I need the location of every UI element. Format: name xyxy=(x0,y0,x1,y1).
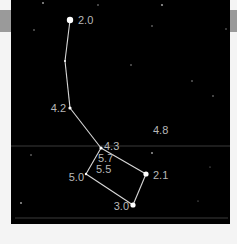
background-star xyxy=(212,95,214,97)
background-star xyxy=(97,4,99,6)
constellation-star xyxy=(143,171,148,176)
background-star xyxy=(30,154,32,156)
constellation-star xyxy=(85,173,87,175)
magnitude-label: 2.0 xyxy=(78,14,93,26)
magnitude-label: 5.0 xyxy=(69,171,84,183)
background-star xyxy=(191,80,193,82)
background-star xyxy=(151,25,153,27)
background-star xyxy=(197,200,198,201)
background-star xyxy=(151,152,153,154)
constellation-line xyxy=(65,61,70,108)
constellation-star xyxy=(67,17,73,23)
background-star xyxy=(161,4,163,6)
magnitude-label: 2.1 xyxy=(153,169,168,181)
constellation-star xyxy=(130,202,135,207)
magnitude-label: 4.8 xyxy=(153,124,168,136)
background-star xyxy=(33,29,35,31)
magnitude-label: 3.0 xyxy=(114,200,129,212)
star-chart: 2.04.24.35.02.13.05.75.54.8 xyxy=(0,0,237,244)
background-star xyxy=(20,202,22,204)
magnitude-label: 4.3 xyxy=(104,140,119,152)
background-star xyxy=(130,64,132,66)
background-star xyxy=(225,28,226,29)
background-star xyxy=(209,166,210,167)
constellation-line xyxy=(70,108,101,148)
magnitude-label: 5.5 xyxy=(96,163,111,175)
constellation-star xyxy=(99,146,102,149)
background-star xyxy=(42,2,44,4)
constellation-line xyxy=(133,174,146,205)
magnitude-label: 4.2 xyxy=(51,102,66,114)
constellation-line xyxy=(65,20,70,61)
constellation-star xyxy=(64,60,66,62)
constellation-star xyxy=(68,106,71,109)
